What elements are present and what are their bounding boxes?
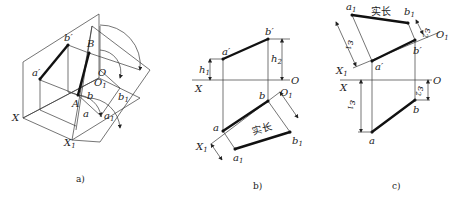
label-B: B (86, 38, 94, 49)
label-a-prime: a′ (222, 46, 231, 57)
label-O: O (433, 75, 441, 86)
label-a1: a1 (233, 152, 243, 165)
line-AB (78, 53, 89, 95)
panel-a-pictorial: a′ b′ B A O O1 b b1 a a1 X X1 a) (11, 14, 150, 184)
label-h1: h1 (199, 64, 210, 77)
label-a: a (213, 122, 219, 133)
label-a: a (83, 108, 89, 119)
label-X: X (339, 82, 348, 93)
label-O1: O1 (280, 87, 293, 100)
label-b: b (87, 90, 93, 101)
label-b1: b1 (118, 91, 129, 104)
label-a-prime: a′ (375, 61, 384, 72)
label-e2-bottom: ε2 (414, 86, 427, 96)
panel-b-orthographic: a′ b′ h1 h2 X O O1 a b X1 a1 b1 实长 b) (192, 26, 303, 191)
label-a1: a1 (346, 1, 356, 14)
label-a: a (369, 135, 375, 146)
projection-figure: a′ b′ B A O O1 b b1 a a1 X X1 a) a′ (0, 0, 452, 203)
label-O: O (291, 75, 299, 86)
label-a-prime: a′ (32, 67, 41, 78)
label-X1: X1 (195, 141, 208, 154)
line-a1-b1 (235, 132, 290, 149)
label-O1: O1 (436, 29, 449, 42)
label-A: A (71, 98, 79, 109)
x1-axis (211, 92, 280, 144)
line-a-prime-b-prime (40, 45, 68, 79)
caption-c: c) (392, 181, 401, 191)
label-b-prime: b′ (265, 26, 274, 37)
caption-a: a) (76, 174, 85, 184)
label-b-prime: b′ (413, 45, 422, 56)
label-true-length: 实长 (250, 120, 272, 137)
label-b1: b1 (404, 6, 415, 19)
label-O1: O1 (94, 77, 107, 90)
label-e2-top: ε2 (421, 28, 434, 38)
label-e1-bottom: ε1 (346, 100, 359, 110)
label-X: X (194, 83, 203, 94)
label-h2: h2 (271, 53, 282, 66)
label-e1-top: ε1 (344, 40, 357, 50)
caption-b: b) (253, 181, 262, 191)
label-b-prime: b′ (64, 32, 73, 43)
label-true-length: 实长 (371, 5, 391, 17)
label-a1: a1 (104, 110, 114, 123)
label-X1: X1 (335, 65, 348, 78)
label-b1: b1 (292, 135, 303, 148)
label-b: b (259, 90, 265, 101)
line-ab (372, 100, 415, 132)
line-a-prime-b-prime (372, 40, 415, 61)
panel-c-orthographic: a1 b1 实长 ε2 O1 ε1 b′ a′ X1 X O ε2 ε1 b a… (335, 1, 449, 191)
v-plane (23, 14, 99, 118)
label-b: b (413, 104, 419, 115)
label-X: X (11, 112, 20, 123)
